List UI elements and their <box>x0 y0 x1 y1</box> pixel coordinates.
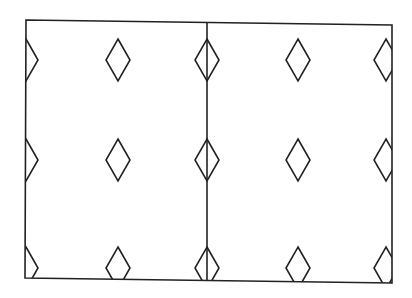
diamond-shape <box>106 139 130 181</box>
diamond-pattern-diagram <box>0 0 412 298</box>
diamond-shape <box>106 39 130 81</box>
diamond-shape <box>106 247 130 289</box>
diamond-shape <box>374 39 398 81</box>
diamond-shape <box>14 247 38 289</box>
diamond-shape <box>286 247 310 289</box>
outer-frame <box>25 20 392 283</box>
diamond-shape <box>286 39 310 81</box>
diamond-shape <box>374 139 398 181</box>
diamond-lattice <box>14 39 398 289</box>
diamond-shape <box>286 139 310 181</box>
